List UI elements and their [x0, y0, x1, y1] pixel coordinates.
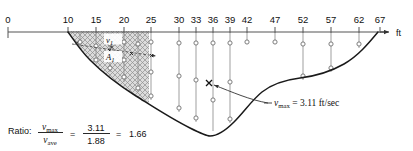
velocity-marker: [194, 116, 198, 120]
tick-label-33: 33: [191, 14, 202, 25]
tick-label-10: 10: [63, 14, 74, 25]
velocity-marker: [122, 58, 126, 62]
tick-label-0: 0: [5, 14, 10, 25]
velocity-marker: [301, 42, 305, 46]
velocity-marker: [211, 41, 215, 45]
ratio-value-numerator: 3.11: [88, 123, 105, 133]
tick-label-20: 20: [119, 14, 130, 25]
velocity-marker: [273, 40, 277, 44]
velocity-marker: [194, 41, 198, 45]
ratio-denominator-symbol: vave: [43, 135, 57, 146]
tick-label-62: 62: [354, 14, 365, 25]
velocity-marker: [211, 98, 215, 102]
max-velocity-annotation: vmax = 3.11 ft/sec: [206, 80, 339, 109]
tick-label-25: 25: [146, 14, 157, 25]
max-velocity-callout: vmax = 3.11 ft/sec: [274, 98, 339, 109]
velocity-marker: [94, 58, 98, 62]
velocity-marker: [228, 80, 232, 84]
tick-label-52: 52: [298, 14, 309, 25]
ratio-equation: Ratio: vmax vave = 3.11 1.88 = 1.66: [8, 122, 147, 146]
velocity-marker: [149, 70, 153, 74]
velocity-marker: [329, 42, 333, 46]
ratio-numerator-symbol: vmax: [42, 122, 59, 133]
velocity-marker: [177, 74, 181, 78]
velocity-marker: [136, 86, 140, 90]
velocity-marker: [136, 42, 140, 46]
tick-label-15: 15: [91, 14, 102, 25]
figure-root: 0 10 15 20 25 30 33 36 39 42 47 52 57 62…: [0, 0, 413, 151]
velocity-marker: [194, 78, 198, 82]
ratio-equals-2: =: [116, 129, 121, 139]
velocity-marker: [149, 94, 153, 98]
velocity-marker: [122, 75, 126, 79]
ratio-equals-1: =: [70, 129, 75, 139]
ratio-result: 1.66: [129, 129, 147, 139]
tick-label-47: 47: [270, 14, 281, 25]
tick-label-67: 67: [375, 14, 386, 25]
velocity-marker: [228, 117, 232, 121]
ratio-value-denominator: 1.88: [87, 136, 105, 146]
axis-tick-labels: 0 10 15 20 25 30 33 36 39 42 47 52 57 62…: [5, 14, 401, 38]
velocity-marker: [228, 41, 232, 45]
tick-label-30: 30: [174, 14, 185, 25]
max-velocity-cross-marker: [206, 80, 212, 86]
velocity-marker: [78, 40, 82, 44]
tick-label-39: 39: [225, 14, 236, 25]
stream-cross-section-figure: 0 10 15 20 25 30 33 36 39 42 47 52 57 62…: [0, 0, 413, 151]
tick-label-36: 36: [208, 14, 219, 25]
velocity-marker: [108, 66, 112, 70]
velocity-marker: [149, 40, 153, 44]
tick-label-42: 42: [242, 14, 253, 25]
velocity-marker: [122, 40, 126, 44]
velocity-marker: [357, 42, 361, 46]
axis-unit-label: ft: [396, 28, 402, 38]
velocity-marker: [177, 41, 181, 45]
velocity-marker: [177, 106, 181, 110]
tick-label-57: 57: [326, 14, 337, 25]
ratio-label: Ratio:: [8, 126, 32, 136]
velocity-marker: [245, 40, 249, 44]
